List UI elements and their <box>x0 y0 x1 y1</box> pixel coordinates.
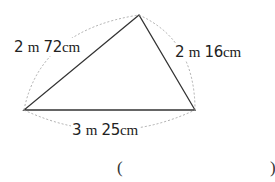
length-value: 72 <box>44 38 63 56</box>
answer-blank[interactable] <box>128 158 268 178</box>
side-label-left: 2 m 72cm <box>14 38 80 56</box>
answer-close-paren: ) <box>270 158 275 178</box>
length-value: 3 <box>72 121 81 139</box>
length-unit: m <box>86 122 97 138</box>
length-value: 2 <box>175 43 184 61</box>
length-unit: m <box>189 44 200 60</box>
side-label-right: 2 m 16cm <box>175 43 241 61</box>
length-unit: cm <box>62 39 80 55</box>
length-value: 16 <box>205 43 224 61</box>
length-unit: cm <box>120 122 138 138</box>
answer-open-paren: ( <box>117 158 123 178</box>
length-value: 2 <box>14 38 23 56</box>
length-value: 25 <box>102 121 121 139</box>
triangle <box>24 15 195 110</box>
length-unit: m <box>28 39 39 55</box>
side-label-bottom: 3 m 25cm <box>71 121 139 139</box>
length-unit: cm <box>223 44 241 60</box>
triangle-diagram <box>0 0 275 182</box>
